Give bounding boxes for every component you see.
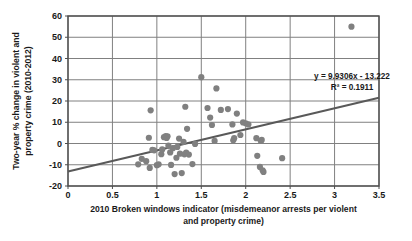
data-point — [180, 139, 186, 145]
data-point — [212, 138, 218, 144]
data-point — [254, 153, 260, 159]
data-point — [229, 121, 235, 127]
x-tick-label: 2 — [243, 190, 248, 200]
data-point — [186, 151, 192, 157]
trendline-equation-label: y = 9.9306x - 13.222 — [314, 72, 390, 81]
x-tick-label: 1 — [154, 190, 159, 200]
data-point — [156, 161, 162, 167]
x-tick-label: 0 — [65, 190, 70, 200]
data-point — [143, 158, 149, 164]
data-point — [135, 161, 141, 167]
data-point — [209, 122, 215, 128]
data-point — [164, 133, 170, 139]
x-tick-label: 1.5 — [195, 190, 208, 200]
y-tick-label: 20 — [52, 96, 62, 106]
y-tick-label: 50 — [52, 32, 62, 42]
data-point — [189, 161, 195, 167]
data-point — [218, 107, 224, 113]
y-axis-tick-labels: 6050403020100-10-20 — [49, 11, 62, 191]
y-axis-title-line2: property crime (2010-2012) — [23, 46, 33, 156]
data-point — [148, 107, 154, 113]
data-point — [259, 137, 265, 143]
data-point — [207, 114, 213, 120]
data-point — [184, 126, 190, 132]
data-point — [146, 135, 152, 141]
y-axis-title-line1: Two-year % change in violent and — [11, 32, 21, 169]
data-point — [147, 165, 153, 171]
y-tick-label: 40 — [52, 54, 62, 64]
data-point — [179, 170, 185, 176]
x-axis-title-line1: 2010 Broken windows indicator (misdemean… — [90, 204, 357, 214]
data-point — [151, 147, 157, 153]
data-point — [159, 146, 165, 152]
y-tick-label: -10 — [49, 160, 62, 170]
data-point — [237, 132, 243, 138]
data-point — [260, 169, 266, 175]
y-tick-label: 30 — [52, 75, 62, 85]
data-point — [279, 155, 285, 161]
x-tick-label: 0.5 — [106, 190, 119, 200]
data-point — [198, 74, 204, 80]
data-point — [192, 141, 198, 147]
data-point — [174, 144, 180, 150]
x-tick-label: 3.5 — [373, 190, 386, 200]
data-point — [231, 135, 237, 141]
x-tick-label: 2.5 — [284, 190, 297, 200]
chart-canvas: 00.511.522.533.56050403020100-10-202010 … — [0, 0, 412, 241]
y-tick-label: 0 — [57, 139, 62, 149]
scatter-chart: 00.511.522.533.56050403020100-10-202010 … — [0, 0, 412, 241]
r-squared-label: R² = 0.1911 — [331, 83, 374, 92]
data-point — [204, 105, 210, 111]
data-point — [225, 106, 231, 112]
y-tick-label: -20 — [49, 181, 62, 191]
x-axis-title-line2: and property crime) — [183, 216, 264, 226]
x-tick-label: 3 — [332, 190, 337, 200]
data-point — [348, 24, 354, 30]
y-tick-label: 60 — [52, 11, 62, 21]
data-point — [234, 110, 240, 116]
x-axis-tick-labels: 00.511.522.533.5 — [65, 190, 385, 200]
data-point — [168, 162, 174, 168]
data-point — [245, 121, 251, 127]
data-point — [172, 171, 178, 177]
data-point — [182, 104, 188, 110]
y-tick-label: 10 — [52, 117, 62, 127]
data-point — [213, 85, 219, 91]
